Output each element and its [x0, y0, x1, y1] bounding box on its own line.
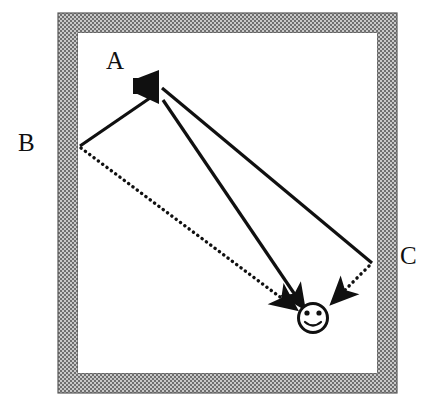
label-b: B	[18, 130, 35, 155]
label-a: A	[106, 48, 124, 73]
smiley-face-icon	[299, 304, 328, 333]
smiley-eye-right	[316, 310, 321, 315]
label-c: C	[400, 243, 417, 268]
figure-canvas: A B C	[0, 0, 428, 409]
smiley-outline	[299, 304, 328, 333]
room-diagram	[0, 0, 428, 409]
smiley-eye-left	[304, 310, 309, 315]
room-interior	[78, 33, 377, 373]
cut-caption-strip	[0, 399, 428, 409]
